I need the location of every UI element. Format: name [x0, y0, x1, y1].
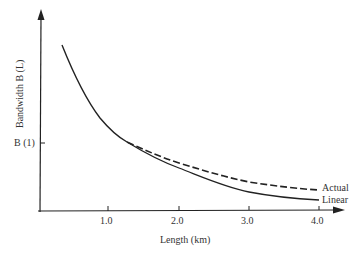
- y-tick-label-b1: B (1): [14, 137, 35, 148]
- y-axis-label: Bandwidth B (L): [14, 60, 25, 128]
- x-tick-label-1: 1.0: [100, 215, 113, 226]
- y-axis-arrow-icon: [38, 9, 45, 20]
- x-axis: [38, 210, 336, 211]
- legend-linear-label: Linear: [322, 194, 348, 205]
- series-linear-line: [127, 142, 319, 200]
- legend-actual-label: Actual: [322, 182, 349, 193]
- x-axis-label: Length (km): [160, 234, 210, 245]
- x-tick-label-3: 3.0: [241, 215, 254, 226]
- x-axis-arrow-icon: [333, 207, 345, 214]
- x-tick-label-4: 4.0: [311, 215, 324, 226]
- y-axis: [40, 16, 41, 212]
- series-actual-line: [127, 142, 319, 190]
- curve-common: [62, 45, 127, 142]
- x-tick-label-2: 2.0: [171, 215, 184, 226]
